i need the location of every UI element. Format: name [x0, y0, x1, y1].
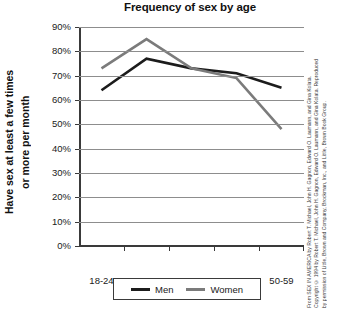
y-tick-mark: [75, 149, 79, 150]
y-tick-mark: [75, 173, 79, 174]
gridline: [79, 124, 304, 125]
x-tick-mark: [259, 246, 260, 251]
y-tick-label: 90%: [31, 21, 71, 32]
y-tick-label: 40%: [31, 143, 71, 154]
gridline: [79, 100, 304, 101]
gridline: [79, 173, 304, 174]
series-line-women: [102, 39, 282, 129]
x-tick-label: 50-59: [254, 275, 310, 286]
gridline: [79, 76, 304, 77]
x-tick-mark: [214, 246, 215, 251]
legend-item-women[interactable]: Women: [186, 284, 243, 295]
y-axis-title-line-1: Have sex at least a few times: [1, 52, 17, 232]
y-tick-mark: [75, 197, 79, 198]
y-tick-mark: [75, 124, 79, 125]
y-tick-mark: [75, 100, 79, 101]
source-credit-text: From SEX IN AMERICA by Robert T. Michael…: [306, 56, 352, 308]
series-lines: [79, 27, 304, 246]
x-tick-mark: [124, 246, 125, 251]
y-tick-mark: [75, 51, 79, 52]
y-tick-label: 30%: [31, 167, 71, 178]
gridline: [79, 149, 304, 150]
y-tick-label: 10%: [31, 216, 71, 227]
x-tick-mark: [169, 246, 170, 251]
y-tick-mark: [75, 76, 79, 77]
y-tick-label: 0%: [31, 240, 71, 251]
gridline: [79, 197, 304, 198]
chart-legend: Men Women: [113, 278, 261, 300]
y-tick-label: 70%: [31, 70, 71, 81]
legend-swatch-men: [131, 288, 150, 291]
chart-title: Frequency of sex by age: [70, 1, 310, 13]
y-tick-label: 20%: [31, 191, 71, 202]
chart-container: Frequency of sex by age Have sex at leas…: [0, 0, 356, 313]
y-tick-mark: [75, 27, 79, 28]
plot-area: 0%10%20%30%40%50%60%70%80%90%18-2425-293…: [79, 27, 304, 246]
y-tick-label: 60%: [31, 94, 71, 105]
source-credit: From SEX IN AMERICA by Robert T. Michael…: [306, 56, 352, 308]
series-line-men: [102, 59, 282, 91]
legend-label-men: Men: [155, 284, 173, 295]
gridline: [79, 222, 304, 223]
gridline: [79, 51, 304, 52]
y-tick-label: 80%: [31, 45, 71, 56]
legend-item-men[interactable]: Men: [131, 284, 173, 295]
y-tick-label: 50%: [31, 118, 71, 129]
y-axis-title: Have sex at least a few times or more pe…: [0, 52, 34, 232]
gridline: [79, 27, 304, 28]
legend-label-women: Women: [210, 284, 243, 295]
legend-swatch-women: [186, 288, 205, 291]
y-tick-mark: [75, 246, 79, 247]
x-tick-mark: [303, 246, 304, 251]
y-tick-mark: [75, 222, 79, 223]
